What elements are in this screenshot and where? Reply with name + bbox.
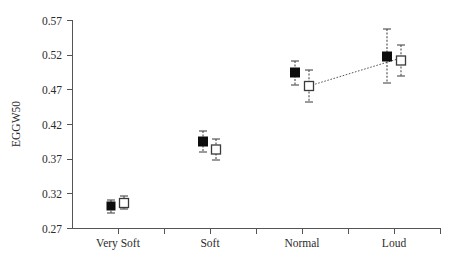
x-tick-label-soft: Soft [200, 237, 220, 249]
y-axis-ticks [67, 21, 73, 229]
y-tick-label: 0.27 [42, 223, 62, 235]
y-tick-label: 0.37 [42, 153, 62, 165]
y-tick-label: 0.52 [42, 49, 62, 61]
marker-open-normal [305, 82, 314, 91]
scatter-chart: EGGW50 0.57 0.52 0.47 0.42 0.37 0.32 0.2… [0, 0, 449, 264]
marker-filled-normal [291, 68, 300, 77]
y-axis-tick-labels: 0.57 0.52 0.47 0.42 0.37 0.32 0.27 [42, 15, 62, 235]
figure-container: EGGW50 0.57 0.52 0.47 0.42 0.37 0.32 0.2… [0, 0, 449, 264]
data-group-soft [199, 131, 221, 160]
y-tick-label: 0.57 [42, 15, 62, 27]
y-tick-label: 0.32 [42, 188, 62, 200]
y-axis-title: EGGW50 [10, 101, 22, 147]
x-axis-ticks [119, 229, 441, 235]
marker-filled-very-soft [107, 202, 115, 210]
x-axis-tick-labels: Very Soft Soft Normal Loud [96, 237, 406, 250]
marker-open-soft [212, 145, 221, 154]
x-tick-label-normal: Normal [284, 237, 319, 249]
x-tick-label-very-soft: Very Soft [96, 237, 141, 250]
data-group-very-soft [107, 196, 129, 213]
marker-filled-loud [383, 52, 392, 61]
y-tick-label: 0.47 [42, 84, 62, 96]
marker-open-loud [397, 56, 406, 65]
data-group-loud [383, 29, 406, 83]
marker-filled-soft [199, 137, 208, 146]
y-tick-label: 0.42 [42, 119, 62, 131]
marker-open-very-soft [120, 199, 129, 208]
x-tick-label-loud: Loud [382, 237, 407, 249]
data-group-normal [291, 61, 314, 102]
